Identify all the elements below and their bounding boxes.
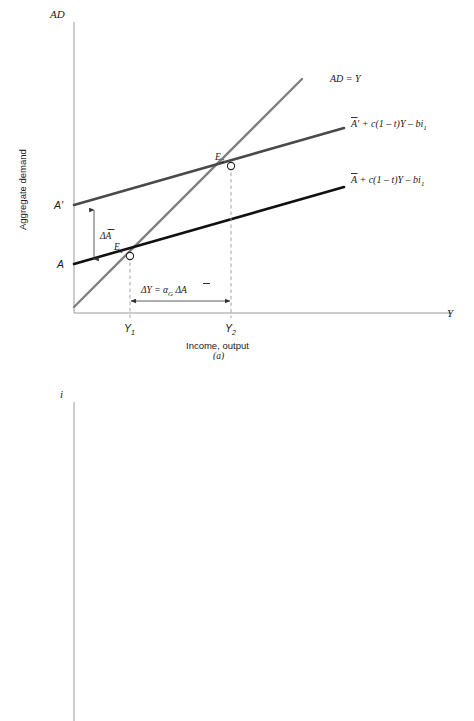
- label-a-prime-sub: 1: [423, 124, 427, 132]
- panel-a-x-axis-symbol: Y: [447, 307, 455, 319]
- panel-a-caption: (a): [213, 351, 224, 360]
- svg-text:ΔY = αG ΔA: ΔY = αG ΔA: [140, 285, 187, 298]
- svg-text:A' + c(1 – t)Y – bi1: A' + c(1 – t)Y – bi1: [350, 118, 427, 132]
- curve-45-degree-line: [74, 79, 302, 307]
- panel-a-point-e1: [126, 252, 133, 259]
- panel-a-x-axis-title: Income, output: [186, 340, 249, 351]
- panel-a-delta-a-label: ΔA: [99, 230, 115, 242]
- panel-a-aggregate-demand: AD Y Aggregate demand AD = Y A' + c(1 – …: [0, 0, 474, 360]
- panel-b-y-axis-symbol: i: [60, 388, 63, 400]
- panel-a-delta-y-label: ΔY = αG ΔA: [140, 284, 210, 298]
- label-a-prime-rest: + c(1 – t)Y – bi: [359, 118, 423, 130]
- panel-a-ytick-a: A: [56, 258, 64, 270]
- label-a-rest: + c(1 – t)Y – bi: [357, 174, 421, 186]
- panel-a-y-axis-symbol: AD: [49, 8, 65, 20]
- panel-a-point-e2: [227, 162, 234, 169]
- economics-figure: AD Y Aggregate demand AD = Y A' + c(1 – …: [0, 0, 474, 721]
- panel-b-is-curve: i Y Interest rate 0 IS' IS E1 E2 i1: [0, 360, 474, 721]
- panel-a-ytick-a-prime: A': [53, 199, 64, 211]
- label-a-sub: 1: [421, 180, 425, 188]
- curve-label-new-aggregate-demand: A' + c(1 – t)Y – bi1: [350, 118, 427, 132]
- curve-label-45-degree: AD = Y: [329, 73, 362, 84]
- panel-a-xtick-y2: Y2: [225, 322, 236, 336]
- panel-a-y-axis-title: Aggregate demand: [17, 149, 28, 230]
- panel-a-xtick-y1: Y1: [124, 322, 135, 336]
- svg-text:A + c(1 – t)Y – bi1: A + c(1 – t)Y – bi1: [350, 174, 424, 188]
- curve-original-aggregate-demand: [74, 187, 344, 264]
- svg-text:ΔA: ΔA: [99, 231, 112, 241]
- curve-new-aggregate-demand: [74, 128, 344, 205]
- curve-label-original-aggregate-demand: A + c(1 – t)Y – bi1: [350, 174, 424, 188]
